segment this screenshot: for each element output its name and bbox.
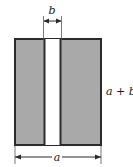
- white-strip: [44, 39, 61, 145]
- bottom-arrowhead-right: [95, 154, 101, 159]
- figure-container: b a + b a: [0, 0, 133, 167]
- top-arrowhead-left: [44, 19, 50, 24]
- label-b: b: [48, 4, 55, 17]
- geometry-diagram: b a + b a: [0, 0, 133, 167]
- label-a: a: [54, 151, 61, 164]
- top-arrowhead-right: [56, 19, 62, 24]
- bottom-arrowhead-left: [15, 154, 21, 159]
- label-a-plus-b: a + b: [106, 85, 133, 98]
